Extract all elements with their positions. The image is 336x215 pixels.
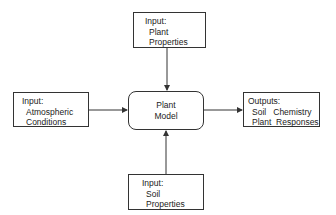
plant-model-box: Plant Model xyxy=(128,91,204,130)
node-label: Plant xyxy=(129,100,203,111)
node-label: Input: xyxy=(142,178,203,189)
node-label: Outputs: xyxy=(248,96,319,107)
node-label: Atmospheric xyxy=(22,107,88,118)
input-plant-properties-box: Input: Plant Properties xyxy=(133,12,206,48)
node-label: Plant Responses xyxy=(248,117,319,128)
node-label: Conditions xyxy=(22,117,88,128)
node-label: Plant xyxy=(145,27,205,38)
node-label: Input: xyxy=(22,96,88,107)
node-label: Soil xyxy=(142,189,203,200)
node-label: Model xyxy=(129,111,203,122)
node-label: Properties xyxy=(145,37,205,48)
input-soil-properties-box: Input: Soil Properties xyxy=(128,174,204,210)
input-atmospheric-conditions-box: Input: Atmospheric Conditions xyxy=(13,92,89,127)
node-label: Soil Chemistry xyxy=(248,107,319,118)
outputs-box: Outputs: Soil Chemistry Plant Responses xyxy=(243,92,320,127)
node-label: Properties xyxy=(142,199,203,210)
node-label: Input: xyxy=(145,16,205,27)
